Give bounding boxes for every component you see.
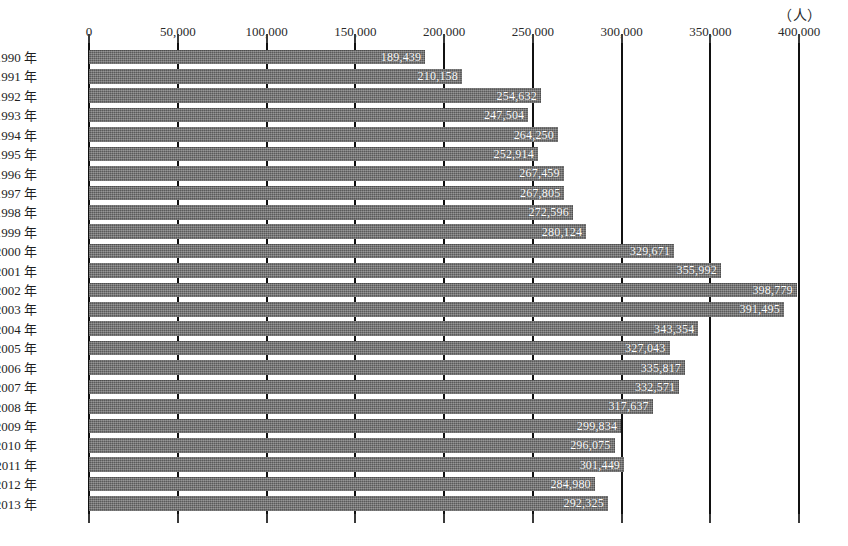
bar-row: 284,980 bbox=[89, 475, 799, 494]
bar-row: 327,043 bbox=[89, 339, 799, 358]
bar-value-label: 335,817 bbox=[641, 362, 681, 374]
bar-row: 296,075 bbox=[89, 436, 799, 455]
y-axis-category-label: 1996 年 bbox=[0, 165, 37, 184]
bar-row: 391,495 bbox=[89, 300, 799, 319]
bar-value-label: 301,449 bbox=[580, 459, 620, 471]
bar: 210,158 bbox=[89, 69, 462, 84]
x-axis-tick-top bbox=[177, 34, 179, 43]
bar: 296,075 bbox=[89, 438, 615, 453]
bar: 317,637 bbox=[89, 399, 653, 414]
bar: 398,779 bbox=[89, 283, 797, 298]
y-axis-category-label: 2007 年 bbox=[0, 378, 37, 397]
y-axis-category-label: 2013 年 bbox=[0, 495, 37, 514]
x-axis-tick-bottom bbox=[532, 514, 534, 523]
x-axis-tick-bottom bbox=[798, 514, 800, 523]
bar-row: 398,779 bbox=[89, 281, 799, 300]
bar: 327,043 bbox=[89, 341, 670, 356]
y-axis-category-label: 2005 年 bbox=[0, 339, 37, 358]
bar-value-label: 329,671 bbox=[630, 245, 670, 257]
y-axis-category-label: 2011 年 bbox=[0, 456, 37, 475]
bar: 252,914 bbox=[89, 147, 538, 162]
y-axis-category-label: 2008 年 bbox=[0, 398, 37, 417]
bar-row: 301,449 bbox=[89, 456, 799, 475]
y-axis-category-label: 2004 年 bbox=[0, 320, 37, 339]
x-axis-tick-top bbox=[798, 34, 800, 43]
bar-value-label: 355,992 bbox=[676, 264, 716, 276]
bar: 272,596 bbox=[89, 205, 573, 220]
y-axis-category-label: 2010 年 bbox=[0, 436, 37, 455]
bar-value-label: 398,779 bbox=[752, 284, 792, 296]
bar-row: 299,834 bbox=[89, 417, 799, 436]
x-axis-tick-top bbox=[354, 34, 356, 43]
y-axis-category-label: 1994 年 bbox=[0, 126, 37, 145]
x-axis-tick-bottom bbox=[266, 514, 268, 523]
bar-value-label: 267,459 bbox=[519, 167, 559, 179]
bar-value-label: 252,914 bbox=[494, 148, 534, 160]
bar-row: 264,250 bbox=[89, 126, 799, 145]
x-axis-tick-top bbox=[532, 34, 534, 43]
bar-row: 210,158 bbox=[89, 67, 799, 86]
y-axis-category-label: 1997 年 bbox=[0, 184, 37, 203]
x-axis-tick-bottom bbox=[621, 514, 623, 523]
bar-chart: （人） 050,000100,000150,000200,000250,0003… bbox=[0, 0, 848, 546]
plot-area: 189,4391990 年210,1581991 年254,6321992 年2… bbox=[89, 48, 799, 514]
y-axis-category-label: 2000 年 bbox=[0, 242, 37, 261]
bar-row: 332,571 bbox=[89, 378, 799, 397]
x-axis-tick-top bbox=[88, 34, 90, 43]
bar: 280,124 bbox=[89, 224, 586, 239]
y-axis-category-label: 1991 年 bbox=[0, 67, 37, 86]
x-axis-tick-labels: 050,000100,000150,000200,000250,000300,0… bbox=[0, 24, 848, 42]
x-axis-tick-bottom bbox=[88, 514, 90, 523]
bar-value-label: 280,124 bbox=[542, 226, 582, 238]
bar-row: 272,596 bbox=[89, 203, 799, 222]
bar-value-label: 332,571 bbox=[635, 381, 675, 393]
bar-row: 335,817 bbox=[89, 359, 799, 378]
y-axis-category-label: 1992 年 bbox=[0, 87, 37, 106]
bar-row: 329,671 bbox=[89, 242, 799, 261]
bar-value-label: 210,158 bbox=[418, 70, 458, 82]
bar: 301,449 bbox=[89, 457, 624, 472]
bar: 299,834 bbox=[89, 419, 621, 434]
bar-value-label: 267,805 bbox=[520, 187, 560, 199]
y-axis-category-label: 1993 年 bbox=[0, 106, 37, 125]
y-axis-category-label: 1999 年 bbox=[0, 223, 37, 242]
bar: 264,250 bbox=[89, 127, 558, 142]
y-axis-category-label: 2012 年 bbox=[0, 475, 37, 494]
y-axis-category-label: 2009 年 bbox=[0, 417, 37, 436]
bar-value-label: 343,354 bbox=[654, 323, 694, 335]
bar-row: 343,354 bbox=[89, 320, 799, 339]
bar-row: 267,805 bbox=[89, 184, 799, 203]
y-axis-category-label: 2006 年 bbox=[0, 359, 37, 378]
x-axis-tick-top bbox=[266, 34, 268, 43]
x-axis-tick-bottom bbox=[177, 514, 179, 523]
bar-value-label: 299,834 bbox=[577, 420, 617, 432]
bar-value-label: 317,637 bbox=[608, 400, 648, 412]
bar-row: 355,992 bbox=[89, 262, 799, 281]
bar: 292,325 bbox=[89, 496, 608, 511]
x-axis-tick-top bbox=[443, 34, 445, 43]
bar-value-label: 247,504 bbox=[484, 109, 524, 121]
bar: 355,992 bbox=[89, 263, 721, 278]
x-axis-tick-bottom bbox=[354, 514, 356, 523]
y-axis-category-label: 1990 年 bbox=[0, 48, 37, 67]
bar-row: 252,914 bbox=[89, 145, 799, 164]
x-axis-tick-top bbox=[709, 34, 711, 43]
bar-value-label: 264,250 bbox=[514, 129, 554, 141]
bar: 284,980 bbox=[89, 477, 595, 492]
y-axis-category-label: 2001 年 bbox=[0, 262, 37, 281]
bar: 247,504 bbox=[89, 108, 528, 123]
bar-value-label: 284,980 bbox=[550, 478, 590, 490]
bar-value-label: 327,043 bbox=[625, 342, 665, 354]
y-axis-category-label: 2003 年 bbox=[0, 300, 37, 319]
bar-row: 254,632 bbox=[89, 87, 799, 106]
bar: 254,632 bbox=[89, 88, 541, 103]
bar-value-label: 254,632 bbox=[497, 90, 537, 102]
x-axis-tick-bottom bbox=[443, 514, 445, 523]
bar-row: 267,459 bbox=[89, 165, 799, 184]
bar: 335,817 bbox=[89, 360, 685, 375]
bar: 329,671 bbox=[89, 244, 674, 259]
y-axis-category-label: 1995 年 bbox=[0, 145, 37, 164]
bar: 391,495 bbox=[89, 302, 784, 317]
bar-row: 292,325 bbox=[89, 495, 799, 514]
bar-value-label: 189,439 bbox=[381, 51, 421, 63]
